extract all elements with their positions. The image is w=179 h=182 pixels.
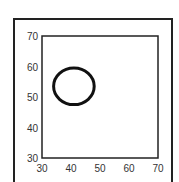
y-tick: 40 bbox=[27, 123, 39, 134]
plot-area bbox=[42, 36, 158, 158]
x-ticks: 30 40 50 60 70 bbox=[36, 163, 164, 174]
x-tick: 70 bbox=[152, 163, 164, 174]
x-tick: 50 bbox=[94, 163, 106, 174]
x-tick: 40 bbox=[65, 163, 77, 174]
plot: 70 60 50 40 30 30 40 50 60 70 bbox=[0, 0, 179, 182]
x-tick: 60 bbox=[123, 163, 135, 174]
y-ticks: 70 60 50 40 30 bbox=[27, 31, 39, 164]
contour-ellipse bbox=[54, 68, 95, 105]
y-tick: 70 bbox=[27, 31, 39, 42]
x-tick: 30 bbox=[36, 163, 48, 174]
y-tick: 50 bbox=[27, 92, 39, 103]
y-tick: 60 bbox=[27, 62, 39, 73]
